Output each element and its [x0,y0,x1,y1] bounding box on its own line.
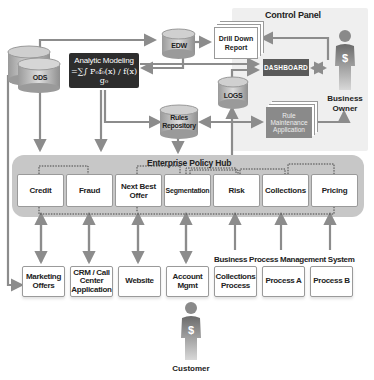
business-owner-label: Business Owner [322,94,368,114]
bpms-title: Business Process Management System [214,255,355,264]
module-next-best-offer: Next Best Offer [115,174,162,207]
process-collections: Collections Process [214,266,257,297]
customer-person-icon: $ [181,302,201,360]
module-fraud: Fraud [66,174,113,207]
channel-account-mgmt: Account Mgmt [166,266,209,297]
channel-website: Website [118,266,161,297]
analytic-modeling-title: Analytic Modeling [69,56,139,65]
edw-label: EDW [166,42,192,50]
ods-label: ODS [28,74,52,82]
channel-crm-call-center: CRM / Call Center Application [70,266,113,297]
process-b: Process B [310,266,353,297]
process-a: Process A [262,266,305,297]
customer-label: Customer [166,364,216,374]
module-collections: Collections [262,174,309,207]
business-owner-person-icon: $ [335,30,355,90]
module-risk: Risk [213,174,260,207]
svg-text:$: $ [188,324,194,336]
ods-cylinder-icon [8,46,60,93]
channel-marketing-offers: Marketing Offers [22,266,65,297]
dashboard-box[interactable]: DASHBOARD [263,59,309,76]
drill-down-report-box[interactable]: Drill Down Report [214,27,258,59]
module-credit: Credit [17,174,64,207]
analytic-modeling-box: Analytic Modeling =∑∫ P₀f₀(x) / f(x) g₀ [69,53,139,88]
analytic-modeling-formula: =∑∫ P₀f₀(x) / f(x) g₀ [69,67,139,85]
rules-repository-label: Rules Repository [160,114,198,130]
module-segmentation: Segmentation [164,174,211,207]
logs-label: LOGS [220,92,246,100]
module-pricing: Pricing [311,174,358,207]
svg-text:$: $ [342,52,348,64]
rule-maintenance-application-box[interactable]: Rule Maintenance Application [266,107,312,138]
